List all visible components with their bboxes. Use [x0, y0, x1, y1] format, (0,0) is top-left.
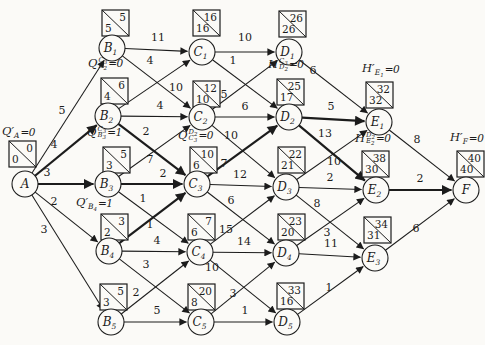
edge-line: [302, 118, 365, 121]
box-bottom-value: 32: [369, 94, 382, 106]
edge-weight-label: 1: [147, 218, 154, 231]
edge-weight-label: 2: [143, 125, 150, 138]
edge-line: [299, 254, 361, 257]
edge-weight-label: 15: [219, 223, 233, 236]
edge-D5-E3: 1: [298, 267, 364, 315]
box-bottom-value: 16: [196, 22, 210, 34]
box-bottom-value: 5: [105, 22, 112, 34]
box-top-value: 10: [201, 148, 214, 160]
edge-C5-D5: 1: [214, 304, 273, 322]
box-bottom-value: 3: [106, 159, 113, 171]
edge-B4-C4: 4: [122, 234, 186, 252]
edge-A-B3: 3: [38, 166, 94, 184]
edge-line: [213, 252, 272, 253]
node-C1: 1616C1: [189, 10, 220, 65]
edge-C3-D3: 12: [210, 168, 272, 187]
edge-C4-D5: 10: [205, 260, 276, 313]
edge-C1-D1: 10: [215, 31, 275, 52]
edge-weight-label: 6: [413, 222, 420, 235]
edge-E2-F: 2: [389, 172, 452, 190]
edge-weight-label: 7: [221, 157, 228, 170]
node-B1: 55B1: [99, 10, 129, 61]
box-bottom-value: 17: [280, 91, 293, 103]
node-C5: 208C5: [188, 284, 215, 335]
node-E2: 3830E2: [362, 151, 389, 203]
box-top-value: 5: [119, 11, 126, 23]
box-top-value: 7: [205, 215, 212, 227]
node-label: F: [461, 183, 471, 197]
edge-weight-label: 1: [326, 281, 333, 294]
edge-weight-label: 5: [59, 104, 66, 117]
graph-svg: 5432311410427211432510156107126151410316…: [0, 0, 485, 345]
edge-weight-label: 5: [328, 100, 335, 113]
edge-weight-label: 11: [324, 237, 338, 250]
edge-weight-label: 11: [151, 31, 165, 44]
node-B3: 53B3: [95, 147, 130, 197]
box-bottom-value: 40: [460, 163, 473, 175]
edge-B2-C2: 4: [121, 99, 188, 117]
edge-weight-label: 3: [44, 166, 51, 179]
edge-weight-label: 8: [414, 133, 421, 146]
node-B5: 53B5: [98, 284, 127, 335]
box-bottom-value: 6: [193, 159, 200, 171]
edge-line: [385, 199, 454, 251]
edge-weight-label: 10: [327, 155, 341, 168]
edge-weight-label: 12: [233, 168, 247, 181]
edge-weight-label: 13: [318, 127, 332, 140]
edge-weight-label: 14: [237, 235, 251, 248]
box-top-value: 20: [199, 285, 212, 297]
edge-C4-D4: 14: [213, 235, 272, 253]
node-D3: 2221D3: [273, 147, 305, 200]
edge-weight-label: 2: [160, 167, 167, 180]
edge-A-B1: 5: [32, 60, 104, 173]
edge-weight-label: 4: [154, 234, 161, 247]
box-bottom-value: 6: [191, 226, 198, 238]
node-C3: 106C3: [184, 147, 217, 197]
edge-weight-label: 3: [230, 287, 237, 300]
box-top-value: 5: [120, 148, 127, 160]
edge-B5-C5: 5: [124, 304, 187, 322]
box-bottom-value: 4: [104, 90, 111, 102]
edge-line: [125, 49, 188, 52]
edge-weight-label: 10: [238, 31, 252, 44]
edge-weight-label: 4: [147, 54, 154, 67]
node-F: 4040F: [453, 151, 484, 203]
box-top-value: 5: [117, 285, 124, 297]
edge-weight-label: 6: [310, 64, 317, 77]
edge-weight-label: 4: [51, 138, 58, 151]
edge-weight-label: 5: [221, 88, 228, 101]
node-E3: 3431E3: [362, 217, 391, 271]
edge-line: [210, 184, 272, 186]
edge-weight-label: 7: [147, 153, 154, 166]
box-top-value: 0: [26, 142, 33, 154]
edge-weight-label: 2: [51, 195, 58, 208]
edge-weight-label: 3: [143, 258, 150, 271]
edge-line: [122, 251, 186, 252]
edge-line: [32, 195, 103, 310]
node-D4: 2320D4: [273, 214, 305, 266]
edge-weight-label: 3: [41, 223, 48, 236]
box-bottom-value: 3: [103, 296, 110, 308]
edge-weight-label: 1: [230, 54, 237, 67]
edge-A-B5: 3: [32, 195, 103, 310]
edge-weight-label: 2: [133, 286, 140, 299]
edge-weight-label: 10: [169, 81, 183, 94]
edge-weight-label: 4: [157, 99, 164, 112]
edge-weight-label: 1: [242, 304, 249, 317]
edge-weight-label: 6: [242, 100, 249, 113]
box-bottom-value: 2: [104, 226, 111, 238]
box-bottom-value: 31: [367, 229, 380, 241]
edge-weight-label: 5: [154, 304, 161, 317]
box-top-value: 6: [118, 79, 125, 91]
dp-route-diagram: 5432311410427211432510156107126151410316…: [0, 0, 485, 345]
node-B2: 64B2: [95, 78, 128, 129]
edge-B1-C1: 11: [125, 31, 188, 51]
edge-weight-label: 10: [224, 129, 238, 142]
node-B4: 32B4: [96, 214, 128, 264]
edge-E3-F: 6: [385, 199, 454, 251]
node-D1: 2626D1: [276, 11, 306, 65]
box-bottom-value: 0: [12, 153, 19, 165]
node-label: A: [20, 177, 30, 191]
edge-weight-label: 6: [228, 194, 235, 207]
box-bottom-value: 10: [196, 93, 209, 105]
